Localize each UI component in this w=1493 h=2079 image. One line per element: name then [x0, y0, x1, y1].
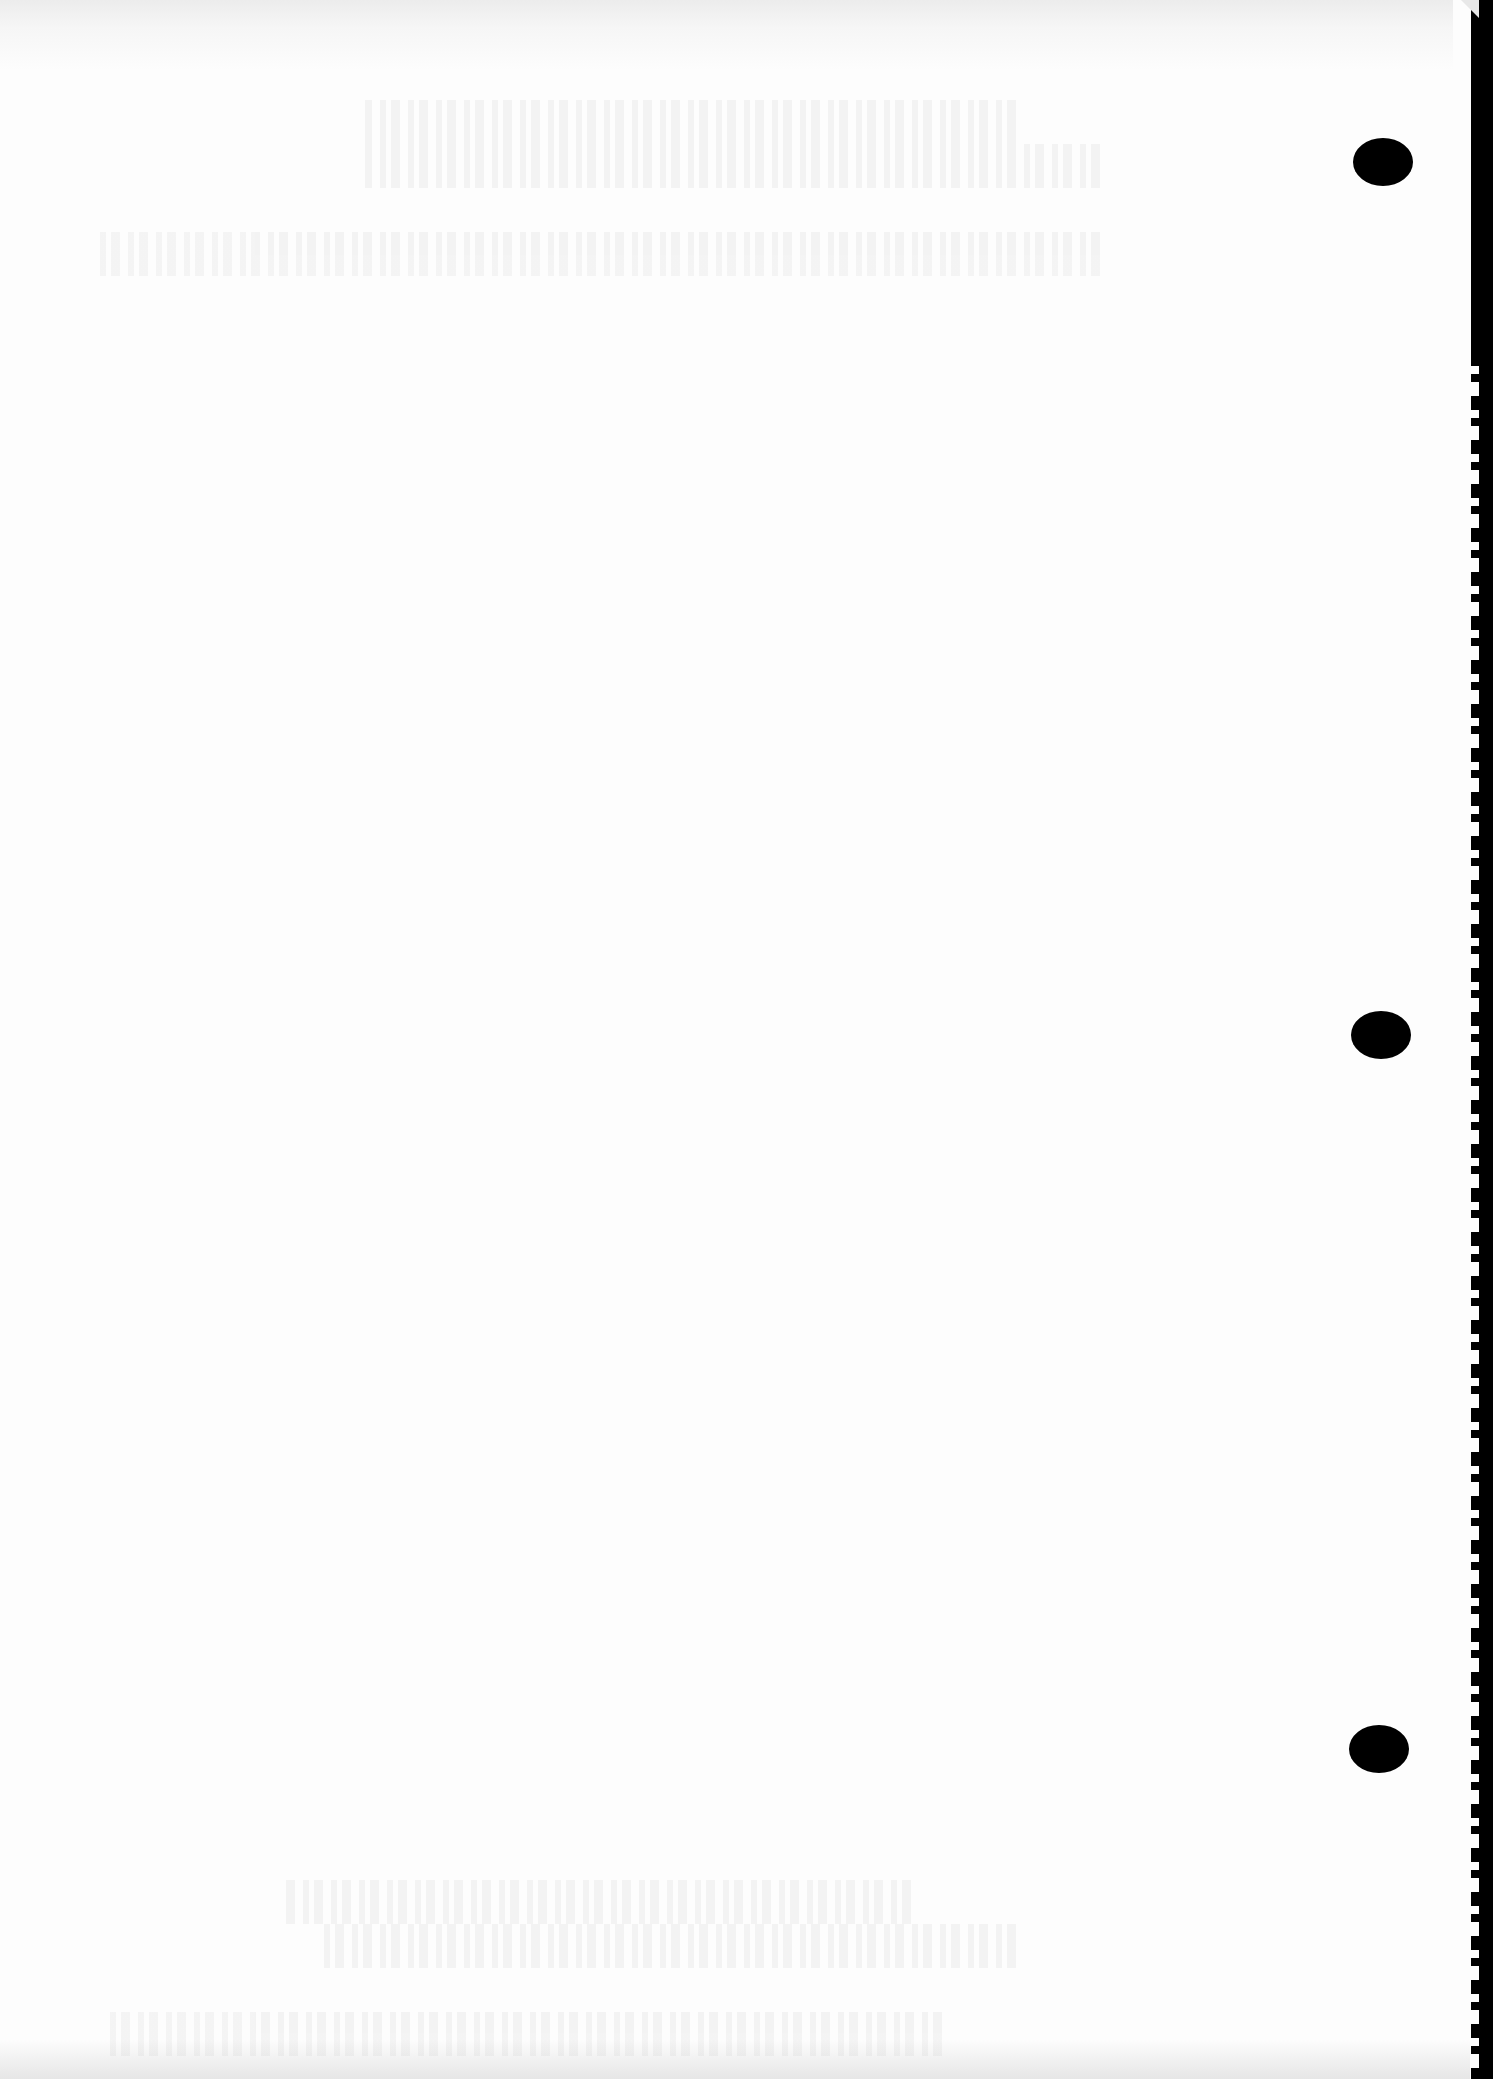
punch-hole-top	[1353, 138, 1413, 186]
punch-hole-bottom	[1349, 1725, 1409, 1773]
bleed-through-text-top	[50, 100, 1100, 276]
bleed-through-text-bottom	[50, 1880, 1100, 2056]
scanned-page	[0, 0, 1493, 2079]
scanner-border-top-segment	[1453, 0, 1493, 360]
scan-shadow-top	[0, 0, 1470, 70]
punch-hole-middle	[1351, 1011, 1411, 1059]
